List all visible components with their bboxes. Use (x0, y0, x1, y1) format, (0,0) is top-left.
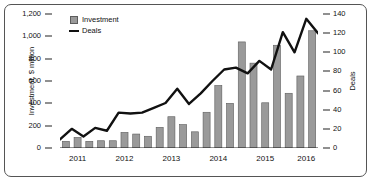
x-tick-label: 2011 (69, 154, 86, 163)
y-axis-left: 02004006008001,0001,200 (6, 14, 52, 148)
bar (62, 141, 69, 148)
y2-tick-mark (323, 71, 330, 72)
chart-legend: Investment Deals (70, 15, 119, 37)
y-tick-mark (45, 125, 52, 126)
y2-tick-label: 20 (333, 125, 341, 133)
x-tick-label: 2013 (163, 154, 181, 163)
bar (285, 93, 292, 148)
y-axis-right-label: Deals (348, 61, 357, 101)
y2-tick-mark (323, 148, 330, 149)
y2-tick-label: 40 (333, 106, 341, 114)
y-tick-mark (45, 148, 52, 149)
y-tick-label: 800 (28, 55, 41, 63)
bar (74, 137, 81, 148)
y-tick-mark (45, 81, 52, 82)
y-tick-mark (45, 103, 52, 104)
bar (215, 85, 222, 148)
y2-tick-mark (323, 90, 330, 91)
bar (238, 42, 245, 148)
x-tick-label: 2012 (116, 154, 134, 163)
bar (297, 76, 304, 148)
x-axis: 201120122013201420152016 (60, 152, 318, 166)
y2-tick-label: 60 (333, 87, 341, 95)
y-tick-mark (45, 14, 52, 15)
legend-label-investment: Investment (82, 15, 119, 24)
y-tick-label: 600 (28, 77, 41, 85)
y2-tick-label: 0 (333, 144, 337, 152)
bar (98, 141, 105, 148)
bar (144, 136, 151, 148)
y-tick-label: 400 (28, 99, 41, 107)
legend-swatch-bar-icon (70, 16, 78, 24)
y2-tick-mark (323, 128, 330, 129)
y2-tick-label: 80 (333, 67, 341, 75)
legend-item-investment: Investment (70, 15, 119, 24)
bar (133, 134, 140, 148)
legend-label-deals: Deals (82, 26, 101, 35)
y2-tick-label: 140 (333, 10, 346, 18)
y-tick-label: 200 (28, 122, 41, 130)
y-tick-label: 1,000 (22, 32, 41, 40)
bar (180, 125, 187, 148)
y2-tick-label: 120 (333, 29, 346, 37)
y-tick-mark (45, 36, 52, 37)
legend-swatch-line-icon (69, 30, 79, 32)
y-axis-right: 020406080100120140 (323, 14, 363, 148)
chart-figure: 02004006008001,0001,200 Investment, $ mi… (0, 0, 371, 186)
bar (262, 103, 269, 148)
bar (109, 141, 116, 148)
bar (121, 132, 128, 148)
y2-tick-mark (323, 14, 330, 15)
y2-tick-mark (323, 33, 330, 34)
bar (191, 132, 198, 148)
x-tick-label: 2016 (297, 154, 315, 163)
y-tick-label: 1,200 (22, 10, 41, 18)
bar (168, 117, 175, 148)
x-tick-label: 2014 (209, 154, 227, 163)
y-tick-mark (45, 58, 52, 59)
y2-tick-label: 100 (333, 48, 346, 56)
y2-tick-mark (323, 109, 330, 110)
bar (86, 141, 93, 148)
legend-item-deals: Deals (70, 26, 119, 35)
y-tick-label: 0 (37, 144, 41, 152)
x-tick-label: 2015 (256, 154, 274, 163)
bar (156, 127, 163, 148)
bar (203, 112, 210, 148)
y2-tick-mark (323, 52, 330, 53)
bar (309, 31, 316, 148)
bar (227, 103, 234, 148)
bar (250, 63, 257, 148)
